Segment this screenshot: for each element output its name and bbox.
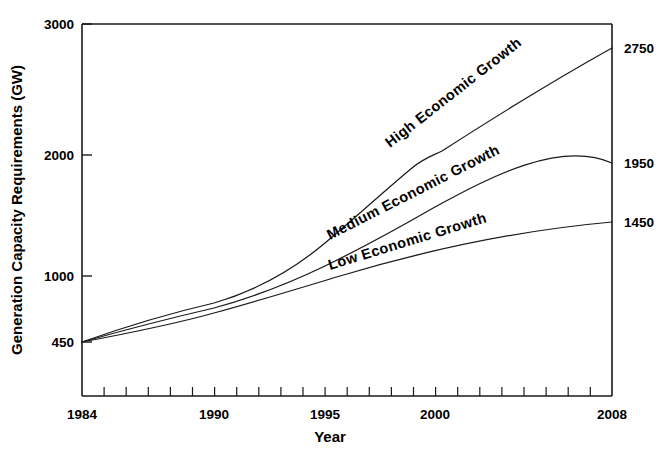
chart-container: 3000 2000 1000 450 1984 1990 1995 2000 2…: [0, 0, 660, 460]
y-tick-label-450: 450: [51, 335, 74, 350]
end-label-medium: 1950: [624, 156, 654, 171]
y-tick-label-3000: 3000: [44, 17, 74, 32]
line-chart: 3000 2000 1000 450 1984 1990 1995 2000 2…: [0, 0, 660, 460]
y-axis-title: Generation Capacity Requirements (GW): [8, 65, 25, 355]
y-tick-label-2000: 2000: [44, 148, 74, 163]
x-tick-label-1995: 1995: [310, 407, 341, 422]
end-label-low: 1450: [624, 215, 654, 230]
y-tick-label-1000: 1000: [44, 269, 74, 284]
x-tick-label-2008: 2008: [597, 407, 628, 422]
x-tick-label-1990: 1990: [199, 407, 229, 422]
x-axis-title: Year: [314, 428, 346, 445]
x-tick-label-1984: 1984: [67, 407, 98, 422]
x-tick-label-2000: 2000: [420, 407, 450, 422]
end-label-high: 2750: [624, 41, 654, 56]
